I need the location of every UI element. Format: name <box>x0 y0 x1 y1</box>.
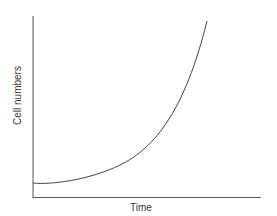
x-axis-label: Time <box>130 202 152 213</box>
y-axis-label: Cell numbers <box>12 51 23 141</box>
growth-curve <box>33 21 207 183</box>
chart-plot <box>0 0 277 216</box>
